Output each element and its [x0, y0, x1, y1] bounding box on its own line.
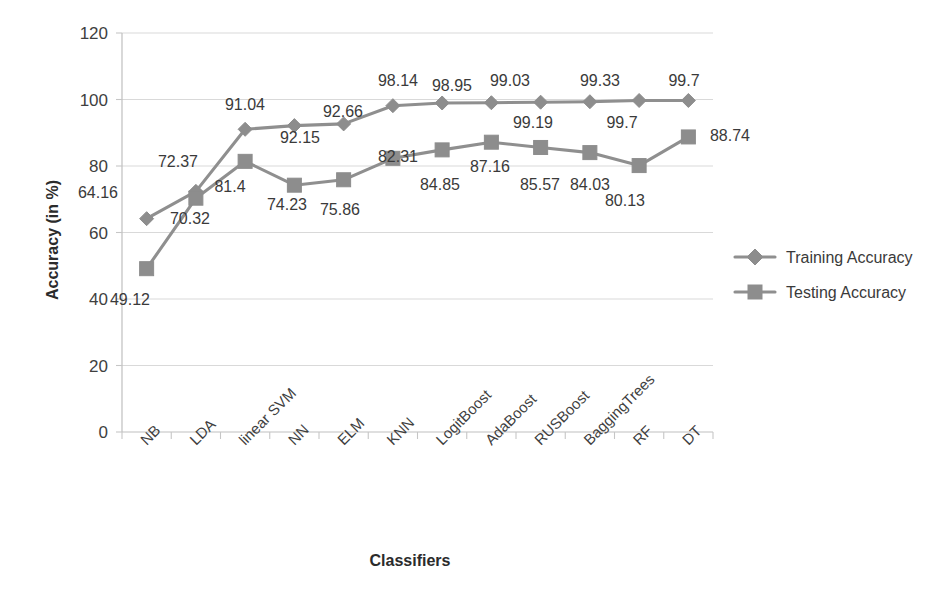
x-category-label: RF	[629, 422, 655, 448]
x-category-label: ELM	[334, 414, 368, 448]
y-tick-label: 40	[89, 290, 108, 309]
legend-item-training-accuracy[interactable]: Training Accuracy	[735, 249, 913, 266]
testing-data-label: 75.86	[320, 201, 360, 218]
testing-data-label: 49.12	[110, 291, 150, 308]
diamond-marker-icon	[435, 96, 449, 110]
training-data-label: 99.03	[490, 72, 530, 89]
diamond-marker-icon	[534, 95, 548, 109]
square-marker-icon	[140, 262, 154, 276]
testing-data-label: 87.16	[470, 158, 510, 175]
square-marker-icon	[748, 285, 762, 299]
diamond-marker-icon	[632, 93, 646, 107]
training-data-label: 98.95	[432, 77, 472, 94]
diamond-marker-icon	[484, 96, 498, 110]
square-marker-icon	[287, 178, 301, 192]
square-marker-icon	[681, 130, 695, 144]
x-category-label: NN	[284, 421, 311, 448]
x-category-label: KNN	[383, 414, 417, 448]
training-data-label: 64.16	[78, 184, 118, 201]
testing-accuracy-data-labels: 49.1270.3281.474.2375.8682.3184.8587.168…	[110, 127, 750, 308]
testing-data-label: 88.74	[710, 127, 750, 144]
diamond-marker-icon	[583, 95, 597, 109]
testing-data-label: 70.32	[170, 210, 210, 227]
square-marker-icon	[238, 154, 252, 168]
y-tick-label: 120	[80, 24, 108, 43]
x-category-label: LDA	[186, 415, 219, 448]
square-marker-icon	[337, 173, 351, 187]
testing-data-label: 84.85	[420, 176, 460, 193]
square-marker-icon	[484, 135, 498, 149]
x-category-label: DT	[678, 422, 704, 448]
training-data-label: 99.33	[580, 72, 620, 89]
testing-data-label: 85.57	[520, 176, 560, 193]
y-axis-tick-labels: 020406080100120	[80, 24, 108, 442]
training-data-label: 99.19	[513, 114, 553, 131]
testing-data-label: 74.23	[267, 196, 307, 213]
accuracy-comparison-chart: 020406080100120 Accuracy (in %) 64.1672.…	[0, 0, 949, 592]
y-tick-label: 0	[99, 423, 108, 442]
square-marker-icon	[435, 143, 449, 157]
diamond-marker-icon	[386, 99, 400, 113]
testing-data-label: 84.03	[570, 176, 610, 193]
training-data-label: 99.7	[606, 114, 637, 131]
chart-canvas: 020406080100120 Accuracy (in %) 64.1672.…	[0, 0, 949, 592]
training-data-label: 91.04	[225, 96, 265, 113]
y-tick-label: 80	[89, 157, 108, 176]
diamond-marker-icon	[747, 249, 763, 265]
y-tick-label: 100	[80, 91, 108, 110]
legend-label-testing: Testing Accuracy	[786, 284, 906, 301]
training-data-label: 72.37	[158, 153, 198, 170]
chart-legend: Training Accuracy Testing Accuracy	[735, 249, 913, 301]
legend-label-training: Training Accuracy	[786, 249, 913, 266]
y-tick-label: 60	[89, 224, 108, 243]
x-axis-title: Classifiers	[370, 552, 451, 569]
diamond-marker-icon	[681, 93, 695, 107]
x-axis-category-labels: NBLDAlinear SVMNNELMKNNLogitBoostAdaBoos…	[137, 370, 705, 448]
training-data-label: 99.7	[668, 72, 699, 89]
x-category-label: NB	[137, 421, 164, 448]
y-tick-label: 20	[89, 357, 108, 376]
square-marker-icon	[583, 146, 597, 160]
testing-data-label: 80.13	[605, 192, 645, 209]
training-data-label: 92.15	[280, 129, 320, 146]
y-axis-ticks	[116, 33, 122, 432]
y-axis-title: Accuracy (in %)	[44, 180, 61, 300]
testing-data-label: 81.4	[214, 178, 245, 195]
square-marker-icon	[189, 191, 203, 205]
square-marker-icon	[534, 140, 548, 154]
training-data-label: 92.66	[323, 103, 363, 120]
square-marker-icon	[632, 159, 646, 173]
diamond-marker-icon	[140, 212, 154, 226]
training-data-label: 98.14	[378, 72, 418, 89]
legend-item-testing-accuracy[interactable]: Testing Accuracy	[735, 284, 906, 301]
testing-data-label: 82.31	[378, 148, 418, 165]
